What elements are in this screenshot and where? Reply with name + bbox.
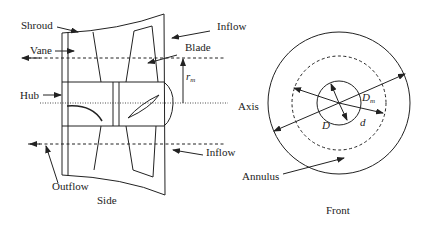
d-arrow <box>331 84 339 103</box>
caption-front: Front <box>326 204 350 216</box>
label-outflow: Outflow <box>52 180 89 192</box>
label-blade: Blade <box>185 41 211 53</box>
vane-bottom <box>94 126 101 170</box>
hub-nose <box>164 82 173 126</box>
label-axis: Axis <box>238 100 259 112</box>
blade-top <box>126 26 158 82</box>
label-d: d <box>360 116 366 128</box>
shroud-pointer <box>57 27 78 32</box>
turbine-diagram: Shroud Vane Hub Outflow Inflow Blade Inf… <box>0 0 423 228</box>
outflow-pointer <box>46 146 58 183</box>
blade-bottom <box>126 126 156 177</box>
shroud-top-curve <box>62 14 164 33</box>
caption-side: Side <box>97 194 117 206</box>
label-Dm: Dm <box>361 91 375 105</box>
label-D: D <box>321 119 330 131</box>
label-vane: Vane <box>30 44 52 56</box>
label-inflow-top: Inflow <box>217 20 246 32</box>
vane-top <box>93 32 101 82</box>
blade-airfoil <box>128 95 159 118</box>
blade-pointer <box>148 55 177 63</box>
label-annulus: Annulus <box>242 170 279 182</box>
front-view <box>268 32 410 174</box>
casing-right <box>164 14 165 195</box>
label-shroud: Shroud <box>21 19 53 31</box>
inflow-bottom-pointer <box>173 150 203 155</box>
label-rm: rm <box>186 70 195 84</box>
diagram-svg: Shroud Vane Hub Outflow Inflow Blade Inf… <box>0 0 423 228</box>
label-inflow-bottom: Inflow <box>206 146 235 158</box>
inflow-top-pointer <box>172 31 210 38</box>
annulus-pointer <box>283 158 344 174</box>
label-hub: Hub <box>20 89 39 101</box>
vane-profile <box>67 106 102 121</box>
